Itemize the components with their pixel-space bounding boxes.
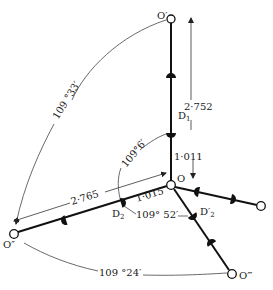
label-distance-1015: 1·015 (134, 185, 165, 204)
atom-o-double-prime (10, 230, 19, 239)
atom-o-prime (167, 15, 175, 23)
angle-labels: 109 °33′ 109°6′ 109° 52′ 109 °24′ (50, 79, 179, 278)
bond-o-to-right-atom (175, 187, 257, 205)
label-d2-prime: D′2 (200, 206, 215, 219)
label-angle-109-33: 109 °33′ (50, 79, 82, 121)
label-angle-109-24: 109 °24′ (99, 267, 142, 278)
atom-o-central (167, 181, 176, 190)
atom-o-triple-prime (228, 270, 237, 279)
tetrahedral-bond-diagram: O′ O O″ O‴ D1 D2 D′2 2·752 1·011 2·765 1… (0, 0, 273, 290)
distance-arrows (14, 18, 193, 221)
label-angle-109-6: 109°6′ (119, 137, 149, 170)
arc-109-33 (72, 20, 166, 100)
label-o-triple-prime: O‴ (239, 270, 252, 281)
arc-109-24-left (24, 243, 98, 271)
deuterium-marker-upper (166, 73, 176, 78)
deuterium-marker-right-inner (193, 186, 200, 197)
bond-o-to-o-triple-prime (174, 189, 229, 270)
deuterium-markers (60, 73, 237, 247)
atom-right (257, 202, 266, 211)
arc-109-33-lower (16, 124, 54, 224)
arc-109-6-lower (118, 168, 121, 198)
arc-109-52-left (124, 206, 136, 214)
label-d2: D2 (112, 208, 125, 221)
deuterium-marker-right-outer (230, 194, 237, 205)
label-distance-2765: 2·765 (69, 188, 100, 207)
angle-arcs (16, 20, 227, 275)
label-o-central: O (177, 173, 185, 184)
deuterium-marker-d1 (166, 133, 176, 138)
label-o-prime: O′ (157, 10, 168, 21)
label-o-double-prime: O″ (3, 239, 15, 250)
deuterium-marker-d2-prime (188, 212, 199, 222)
label-distance-1011: 1·011 (174, 151, 203, 162)
label-angle-109-52: 109° 52′ (136, 209, 179, 220)
arc-109-24-right (143, 273, 227, 275)
label-distance-2752: 2·752 (184, 101, 213, 112)
